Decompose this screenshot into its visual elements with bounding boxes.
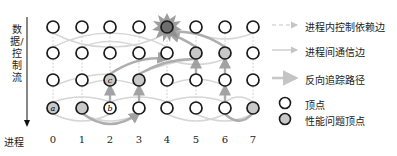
vertex-node bbox=[247, 21, 259, 33]
vertex-node bbox=[47, 74, 59, 86]
problem-vertex-node bbox=[247, 102, 259, 114]
vertex-node bbox=[190, 21, 202, 33]
vertex-node bbox=[219, 102, 231, 114]
process-label: 4 bbox=[159, 134, 175, 145]
vertex-node bbox=[104, 21, 116, 33]
vertex-node bbox=[76, 47, 88, 59]
vertex-node bbox=[161, 74, 173, 86]
problem-vertex-node bbox=[133, 74, 145, 86]
legend-label-backtrace: 反向追踪路径 bbox=[305, 72, 365, 87]
vertex-node bbox=[190, 74, 202, 86]
vertex-node bbox=[219, 21, 231, 33]
problem-vertex-node bbox=[190, 47, 202, 59]
vertex-letter: c bbox=[108, 76, 113, 85]
root-cause-vertex-node bbox=[161, 21, 173, 33]
process-label: 3 bbox=[131, 134, 147, 145]
vertex-node bbox=[247, 47, 259, 59]
vertex-node bbox=[219, 74, 231, 86]
vertex-node bbox=[47, 21, 59, 33]
vertex-node bbox=[133, 102, 145, 114]
vertex-node bbox=[161, 47, 173, 59]
vertex-node bbox=[133, 47, 145, 59]
vertex-node bbox=[190, 102, 202, 114]
process-axis-title: 进程 bbox=[4, 134, 24, 149]
vertex-node bbox=[133, 21, 145, 33]
legend-label-problem-vertex: 性能问题顶点 bbox=[305, 113, 365, 128]
legend-label-vertex: 顶点 bbox=[305, 97, 325, 112]
vertex-node bbox=[76, 74, 88, 86]
vertex-letter: b bbox=[107, 104, 112, 113]
process-label: 2 bbox=[102, 134, 118, 145]
legend-label-control-dependency: 进程内控制依赖边 bbox=[305, 19, 385, 34]
legend-label-communication: 进程间通信边 bbox=[305, 44, 365, 59]
vertex-node bbox=[161, 102, 173, 114]
legend-problem-vertex-icon bbox=[280, 114, 291, 125]
problem-vertex-node bbox=[76, 102, 88, 114]
process-label: 7 bbox=[245, 134, 261, 145]
problem-vertex-node bbox=[219, 47, 231, 59]
process-label: 0 bbox=[45, 134, 61, 145]
legend-vertex-icon bbox=[280, 98, 291, 109]
process-label: 1 bbox=[74, 134, 90, 145]
process-label: 6 bbox=[217, 134, 233, 145]
vertex-node bbox=[47, 47, 59, 59]
vertex-node bbox=[76, 21, 88, 33]
vertex-letter: a bbox=[51, 104, 56, 113]
flow-axis-label: 数据/控制流 bbox=[10, 24, 24, 84]
vertex-node bbox=[247, 74, 259, 86]
vertex-node bbox=[104, 47, 116, 59]
process-label: 5 bbox=[188, 134, 204, 145]
